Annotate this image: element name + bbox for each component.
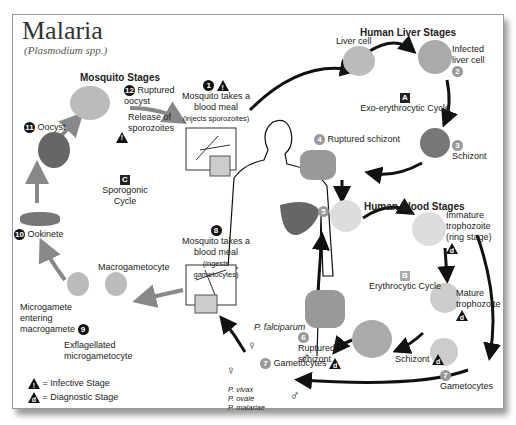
immature-trophozoite-label: Immature trophozoite (ring stage) d [446,210,496,254]
cycle-a: AExo-erythrocytic Cycle [350,92,460,114]
blood-schizont-label: Schizont d [395,354,444,365]
stage-11: 11 Oocyst [24,122,66,133]
stage-2: Infected liver cell2 [452,44,492,77]
release-label: Release of sporozoites [128,112,183,134]
stage-9: Microgamete entering macrogamete 9 [20,302,100,335]
liver-stages-heading: Human Liver Stages [360,27,456,38]
female-symbol: ♀ [247,340,257,351]
mosquito-stages-heading: Mosquito Stages [80,72,160,83]
stage-5: 5 [318,206,329,217]
cycle-c: CSporogonic Cycle [90,174,160,207]
red-blood-cell [330,200,362,232]
stage-7-right: 7Gametocytes [440,370,493,392]
infected-liver-cell [418,40,452,74]
blood-schizont [352,320,392,358]
liver-cell [343,46,375,76]
stage-10: 10 Ookinete [14,229,64,240]
ookinete [20,212,60,226]
page-title: Malaria [22,16,103,46]
microgametocyte [67,272,89,296]
p-falciparum-label: P. falciparum [254,322,305,333]
stage-3: 3Schizont [452,140,487,162]
ruptured-oocyst [70,86,110,120]
liver-cell-label: Liver cell [336,36,372,47]
stage-4: 4 Ruptured schizont [314,134,400,145]
male-symbol: ♂ [300,352,310,363]
ruptured-liver-schizont [300,150,336,180]
ring-stage-cell [412,212,446,246]
cycle-b: BErythrocytic Cycle [360,270,450,292]
macrogametocyte [105,272,127,296]
stage-1: 1 !Mosquito takes a blood meal(injects s… [180,80,252,124]
female-symbol-2: ♀ [226,365,236,376]
liver-schizont [420,128,450,158]
stage-8: 8Mosquito takes a blood meal(ingests gam… [180,225,252,280]
macrogametocyte-label: Macrogametocyte [98,262,170,273]
legend-infective: ! = Infective Stage [28,378,110,389]
stage-12: 12 Ruptured oocyst [124,85,184,107]
oocyst [38,132,70,168]
mature-trophozoite-label: Mature trophozoite d [456,288,500,321]
p-species-list: P. vivaxP. ovaleP. malariae [228,385,265,412]
exflag-label: Exflagellated microgametocyte [64,340,134,362]
male-symbol-2: ♂ [290,390,300,401]
ruptured-blood-schizont [305,290,345,328]
page-subtitle: (Plasmodium spp.) [24,44,107,56]
infective-stage-icon: ! [116,132,128,143]
legend-diagnostic: d = Diagnostic Stage [28,392,118,403]
